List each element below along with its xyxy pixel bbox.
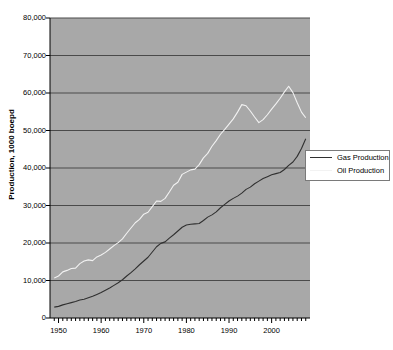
y-tick-label: 40,000 <box>0 164 46 172</box>
y-tick-label: 0 <box>0 314 46 322</box>
x-tick-label: 2000 <box>252 326 292 335</box>
y-tick-label: 30,000 <box>0 202 46 210</box>
production-line-chart: Production, 1000 boepd 010,00020,00030,0… <box>0 0 393 350</box>
y-tick-label: 50,000 <box>0 127 46 135</box>
x-tick-label: 1970 <box>124 326 164 335</box>
y-tick-label: 10,000 <box>0 277 46 285</box>
x-tick-label: 1960 <box>81 326 121 335</box>
legend-item-gas-production: Gas Production <box>306 151 389 164</box>
y-tick-label: 80,000 <box>0 14 46 22</box>
y-tick-label: 60,000 <box>0 89 46 97</box>
legend-item-oil-production: Oil Production <box>306 164 389 177</box>
chart-legend: Gas Production Oil Production <box>305 150 390 181</box>
legend-line-swatch-oil <box>310 170 332 171</box>
x-tick-label: 1950 <box>39 326 79 335</box>
x-tick-label: 1980 <box>166 326 206 335</box>
y-tick-label: 70,000 <box>0 52 46 60</box>
y-tick-label: 20,000 <box>0 239 46 247</box>
legend-label-gas: Gas Production <box>337 153 389 162</box>
legend-label-oil: Oil Production <box>337 166 384 175</box>
legend-line-swatch-gas <box>310 157 332 158</box>
x-tick-label: 1990 <box>209 326 249 335</box>
